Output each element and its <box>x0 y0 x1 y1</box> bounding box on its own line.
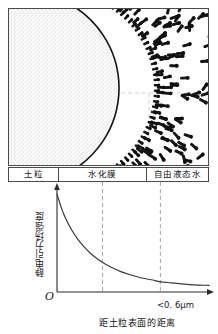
water-dipole-glyph <box>154 78 160 81</box>
water-dipole-glyph <box>166 9 171 14</box>
chart-x-axis-label: 距土粒表面的距离 <box>99 316 176 329</box>
zone-label-strip: 土粒 水化膜 自由液态水 <box>8 167 209 182</box>
y-axis-arrow <box>54 183 60 190</box>
water-dipole-glyph <box>176 24 184 33</box>
water-dipole-glyph <box>163 75 172 79</box>
water-dipole-glyph <box>151 62 157 66</box>
water-dipole-glyph <box>111 9 116 10</box>
water-dipole-glyph <box>190 143 199 151</box>
water-dipole-glyph <box>128 152 134 158</box>
figure-root: 土粒 水化膜 自由液态水 静电引力场强度 O <0. 6μm 距土粒表面的距离 <box>0 0 218 334</box>
water-dipole-glyph <box>184 133 193 138</box>
water-dipole-glyph <box>201 82 209 91</box>
water-dipole-glyph <box>170 64 179 67</box>
water-dipole-glyph <box>149 116 155 120</box>
water-dipole-glyph <box>199 98 208 105</box>
water-dipole-glyph <box>129 9 137 11</box>
water-dipole-glyph <box>154 84 160 86</box>
water-dipole-glyph <box>170 139 178 147</box>
water-dipole-glyph <box>173 132 181 140</box>
schematic-diagram-canvas <box>9 9 209 166</box>
water-dipole-glyph <box>143 161 151 166</box>
water-dipole-glyph <box>154 89 160 91</box>
water-dipole-glyph <box>157 16 166 21</box>
water-dipole-glyph <box>177 9 184 12</box>
water-dipole-glyph <box>201 59 209 63</box>
x-axis-arrow <box>207 289 214 295</box>
water-dipole-glyph <box>161 41 170 46</box>
water-dipole-glyph <box>148 51 154 55</box>
water-dipole-glyph <box>153 100 159 103</box>
water-dipole-glyph <box>133 9 141 16</box>
water-dipole-glyph <box>154 129 163 135</box>
water-dipole-glyph <box>182 42 191 47</box>
schematic-diagram <box>8 8 209 166</box>
water-dipole-glyph <box>164 146 173 153</box>
water-dipole-glyph <box>124 14 130 20</box>
water-dipole-glyph <box>181 76 190 79</box>
water-dipole-glyph <box>204 43 209 48</box>
water-dipole-glyph <box>152 105 158 108</box>
water-dipole-glyph <box>140 17 148 24</box>
water-dipole-glyph <box>143 131 149 136</box>
water-dipole-glyph <box>196 152 205 160</box>
field-intensity-curve <box>57 194 209 285</box>
water-dipole-glyph <box>167 53 175 56</box>
water-dipole-glyph <box>201 91 209 96</box>
water-dipole-glyph <box>149 154 158 161</box>
water-dipole-glyph <box>143 41 149 46</box>
water-dipole-glyph <box>141 135 147 140</box>
chart-x-extent-annotation: <0. 6μm <box>157 300 194 310</box>
zone-label-free-liquid-water: 自由液态水 <box>147 168 208 181</box>
water-dipole-glyph <box>154 95 160 98</box>
water-dipole-glyph <box>174 149 183 155</box>
water-dipole-glyph <box>159 153 166 162</box>
chart-y-axis-label: 静电引力场强度 <box>33 196 47 292</box>
water-dipole-glyph <box>138 165 146 166</box>
zone-label-soil-particle: 土粒 <box>9 168 59 181</box>
chart-origin-label: O <box>45 290 54 303</box>
water-dipole-glyph <box>124 156 130 162</box>
water-dipole-glyph <box>152 67 158 70</box>
water-dipole-glyph <box>181 165 190 166</box>
water-dipole-glyph <box>164 92 172 95</box>
water-dipole-glyph <box>138 140 144 145</box>
soil-particle <box>9 9 119 166</box>
water-dipole-glyph <box>153 73 159 76</box>
zone-label-hydration-film: 水化膜 <box>59 168 147 181</box>
water-dipole-glyph <box>207 29 209 38</box>
